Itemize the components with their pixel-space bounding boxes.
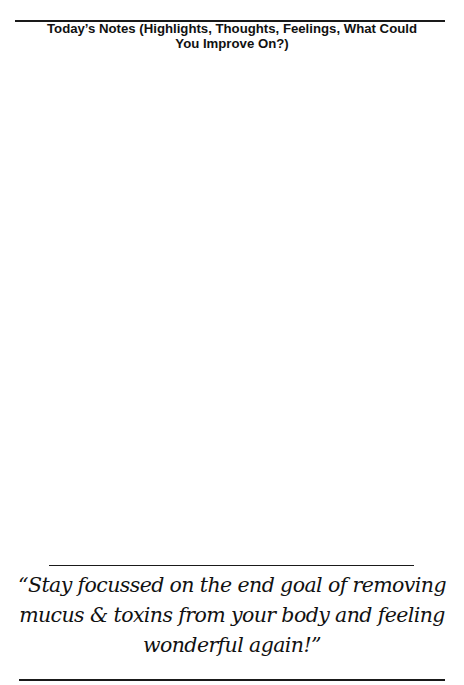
notes-writing-area [15,55,445,550]
motivational-quote: “Stay focussed on the end goal of removi… [8,570,456,660]
quote-top-divider [49,565,414,566]
quote-line-3: wonderful again!” [8,630,456,660]
notes-heading-line-2: You Improve On?) [175,36,288,51]
notes-heading: Today’s Notes (Highlights, Thoughts, Fee… [10,21,454,51]
bottom-divider [19,679,445,681]
quote-line-1: “Stay focussed on the end goal of removi… [8,570,456,600]
notes-heading-line-1: Today’s Notes (Highlights, Thoughts, Fee… [47,21,417,36]
quote-line-2: mucus & toxins from your body and feelin… [8,600,456,630]
